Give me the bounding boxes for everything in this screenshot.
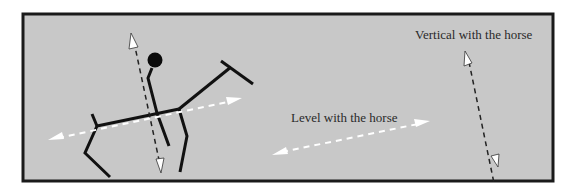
rider-head: [148, 53, 163, 68]
vertical-label: Vertical with the horse: [415, 27, 533, 42]
diagram-canvas: Level with the horse Vertical with the h…: [0, 0, 575, 191]
level-label: Level with the horse: [291, 110, 398, 125]
